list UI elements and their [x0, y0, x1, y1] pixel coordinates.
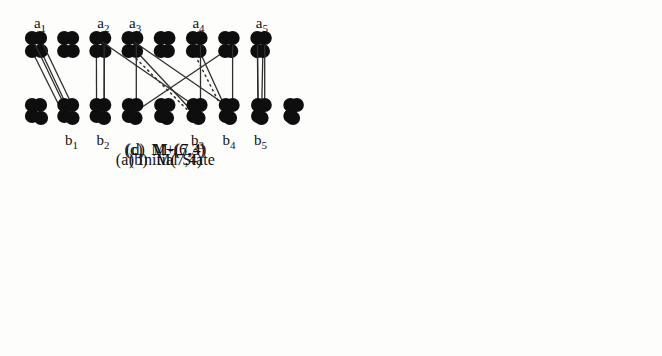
matching-edge	[96, 38, 193, 105]
matching-edge	[257, 38, 258, 105]
top-vertex-dot	[57, 31, 71, 45]
bottom-vertex-dot	[219, 98, 233, 112]
panel-m-minus-6-3: (d) M-(6,3)	[0, 0, 331, 178]
bottom-vertex-dot	[57, 98, 71, 112]
top-vertex-dot	[218, 31, 232, 45]
matching-edge	[32, 38, 64, 105]
bottom-vertex-dot	[90, 98, 104, 112]
bottom-vertex-dot	[154, 98, 168, 112]
top-vertex-dot	[89, 31, 103, 45]
panel-m-minus-6-3-caption: (d) M-(6,3)	[0, 141, 331, 159]
top-vertex-dot	[25, 31, 39, 45]
matching-edge	[129, 38, 226, 105]
bottom-vertex-dot	[251, 98, 265, 112]
top-vertex-dot	[250, 31, 264, 45]
top-vertex-dot	[154, 31, 168, 45]
bottom-vertex-dot	[25, 98, 39, 112]
top-vertex-dot	[186, 31, 200, 45]
bottom-vertex-dot	[122, 98, 136, 112]
bottom-vertex-dot	[186, 98, 200, 112]
bottom-vertex-dot	[283, 98, 297, 112]
matching-figure: a1a2a3a4a5b1b2b3b4b5 (a) Initial State (…	[0, 0, 662, 356]
top-vertex-dot	[122, 31, 136, 45]
